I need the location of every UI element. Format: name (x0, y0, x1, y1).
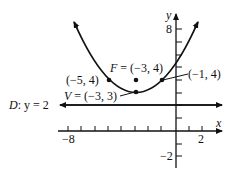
focus-label: F = (−3, 4) (109, 61, 163, 75)
x-tick-label-neg8: −8 (62, 132, 75, 146)
y-tick-label-8: 8 (166, 22, 172, 36)
y-tick-label-neg2: −2 (160, 149, 173, 163)
x-tick-label-2: 2 (198, 132, 204, 146)
point-right-label: (−1, 4) (188, 67, 221, 81)
vertex-label: V = (−3, 3) (64, 89, 117, 103)
focus-point (134, 78, 139, 83)
y-axis-label: y (165, 8, 172, 22)
x-axis-label: x (215, 116, 222, 130)
y-axis: y 8 −2 (160, 8, 182, 168)
x-axis: x −8 2 (58, 116, 222, 146)
point-left-label: (−5, 4) (66, 73, 99, 87)
parabola-diagram: x −8 2 y 8 −2 D: y = 2 (0, 0, 231, 182)
directrix-label: D: y = 2 (8, 98, 49, 112)
point-left (107, 78, 112, 83)
